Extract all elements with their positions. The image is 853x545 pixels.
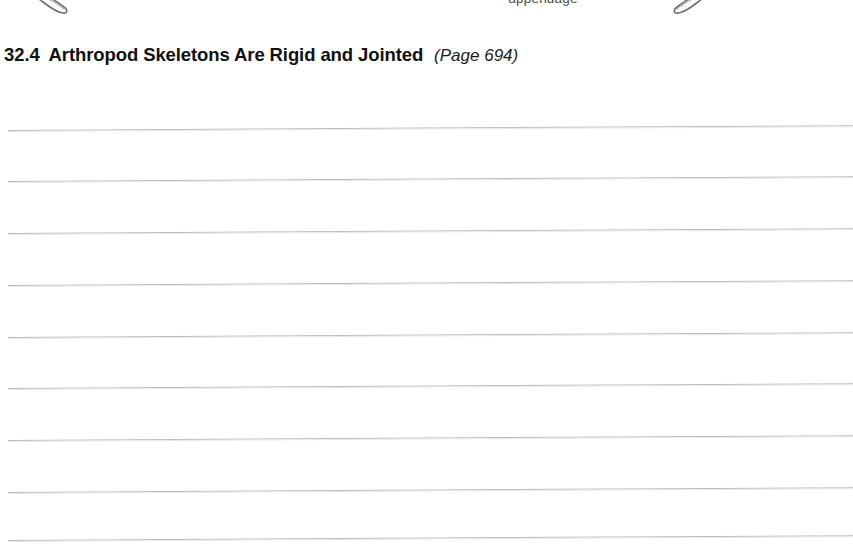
answer-line (8, 487, 853, 493)
answer-line (8, 280, 853, 286)
answer-line (8, 176, 853, 182)
answer-line (8, 125, 853, 131)
answer-line (8, 535, 853, 541)
answer-line (8, 383, 853, 389)
answer-line (8, 435, 853, 441)
answer-line (8, 332, 853, 338)
answer-lines-group (0, 0, 853, 545)
study-guide-page: appendage 32.4Arthropod Skeletons Are Ri… (0, 0, 853, 545)
answer-line (8, 228, 853, 234)
